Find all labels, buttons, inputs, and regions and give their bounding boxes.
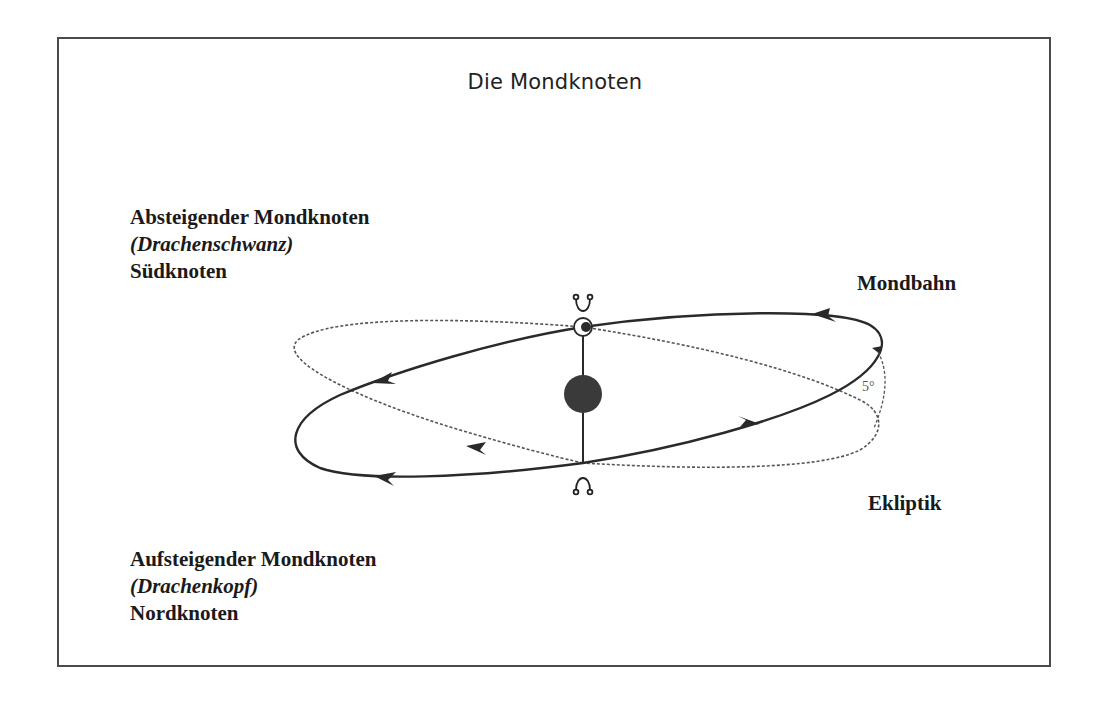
descending-node-symbol-icon [574, 295, 593, 311]
svg-text:5°: 5° [862, 379, 875, 394]
ascending-node-symbol-icon [574, 478, 593, 494]
earth-icon [564, 375, 602, 413]
moon-icon [574, 318, 592, 336]
lunar-nodes-diagram: 5° [0, 0, 1110, 713]
